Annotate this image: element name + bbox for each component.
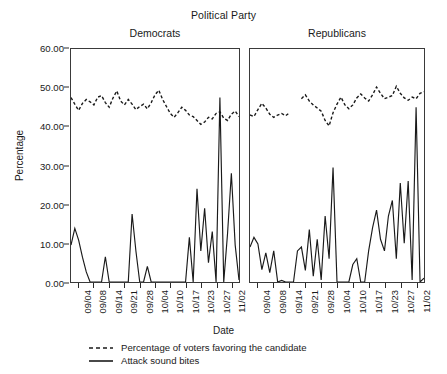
x-tick-mark bbox=[78, 283, 79, 288]
x-tick-label: 10/17 bbox=[373, 290, 384, 313]
x-tick-mark bbox=[305, 283, 306, 288]
x-tick-mark bbox=[401, 283, 402, 288]
legend-label-voters: Percentage of voters favoring the candid… bbox=[121, 342, 307, 353]
x-tick-mark bbox=[109, 283, 110, 288]
x-tick-mark bbox=[186, 283, 187, 288]
y-axis-ticks: 0.0010.0020.0030.0040.0050.0060.00 bbox=[16, 0, 64, 374]
y-tick-mark bbox=[64, 165, 69, 166]
x-tick-mark bbox=[273, 283, 274, 288]
x-tick-label: 10/23 bbox=[205, 290, 216, 313]
x-tick-label: 11/02 bbox=[236, 290, 247, 313]
x-tick-label: 09/14 bbox=[113, 290, 124, 313]
x-tick-label: 09/21 bbox=[128, 290, 139, 313]
x-tick-label: 10/10 bbox=[357, 290, 368, 313]
x-tick-label: 09/28 bbox=[144, 290, 155, 313]
legend-item-attack: Attack sound bites bbox=[88, 354, 307, 367]
y-tick-label: 40.00 bbox=[18, 121, 64, 132]
y-tick-label: 20.00 bbox=[18, 199, 64, 210]
panel-republicans bbox=[249, 48, 425, 283]
x-tick-label: 10/17 bbox=[190, 290, 201, 313]
x-tick-mark bbox=[201, 283, 202, 288]
x-tick-label: 09/04 bbox=[82, 290, 93, 313]
y-tick-mark bbox=[64, 126, 69, 127]
x-tick-mark bbox=[170, 283, 171, 288]
x-tick-label: 10/04 bbox=[159, 290, 170, 313]
chart-title: Political Party bbox=[0, 9, 447, 21]
x-tick-label: 10/27 bbox=[221, 290, 232, 313]
y-tick-label: 60.00 bbox=[18, 43, 64, 54]
x-tick-mark bbox=[417, 283, 418, 288]
x-tick-label: 11/02 bbox=[421, 290, 432, 313]
y-tick-label: 10.00 bbox=[18, 238, 64, 249]
x-tick-label: 09/08 bbox=[277, 290, 288, 313]
x-tick-mark bbox=[93, 283, 94, 288]
x-tick-mark bbox=[321, 283, 322, 288]
x-tick-label: 09/28 bbox=[325, 290, 336, 313]
y-tick-label: 0.00 bbox=[18, 278, 64, 289]
panel-title-republicans: Republicans bbox=[249, 27, 425, 39]
x-tick-mark bbox=[217, 283, 218, 288]
chart-legend: Percentage of voters favoring the candid… bbox=[88, 341, 307, 367]
x-tick-label: 10/04 bbox=[341, 290, 352, 313]
panel-title-democrats: Democrats bbox=[70, 27, 240, 39]
y-tick-mark bbox=[64, 243, 69, 244]
x-tick-label: 10/10 bbox=[174, 290, 185, 313]
solid-line-icon bbox=[88, 356, 114, 366]
y-tick-mark bbox=[64, 283, 69, 284]
x-tick-mark bbox=[289, 283, 290, 288]
x-axis-label: Date bbox=[0, 325, 447, 336]
y-tick-mark bbox=[64, 48, 69, 49]
series-line-voters bbox=[250, 86, 424, 126]
x-tick-label: 09/14 bbox=[293, 290, 304, 313]
x-tick-label: 09/04 bbox=[261, 290, 272, 313]
y-tick-label: 30.00 bbox=[18, 160, 64, 171]
x-tick-mark bbox=[257, 283, 258, 288]
legend-label-attack: Attack sound bites bbox=[121, 355, 199, 366]
x-tick-mark bbox=[353, 283, 354, 288]
x-tick-label: 09/08 bbox=[97, 290, 108, 313]
x-tick-label: 10/23 bbox=[389, 290, 400, 313]
chart-figure: Political Party Democrats Republicans Pe… bbox=[0, 0, 447, 374]
x-tick-mark bbox=[124, 283, 125, 288]
series-line-attack bbox=[250, 107, 424, 282]
x-tick-mark bbox=[140, 283, 141, 288]
x-tick-mark bbox=[337, 283, 338, 288]
panel-democrats bbox=[70, 48, 240, 283]
y-tick-label: 50.00 bbox=[18, 82, 64, 93]
series-line-attack bbox=[71, 98, 239, 282]
legend-item-voters: Percentage of voters favoring the candid… bbox=[88, 341, 307, 354]
dashed-line-icon bbox=[88, 343, 114, 353]
x-tick-label: 10/27 bbox=[405, 290, 416, 313]
y-tick-mark bbox=[64, 87, 69, 88]
x-tick-label: 09/21 bbox=[309, 290, 320, 313]
x-tick-mark bbox=[369, 283, 370, 288]
x-tick-mark bbox=[232, 283, 233, 288]
x-tick-mark bbox=[385, 283, 386, 288]
series-line-voters bbox=[71, 90, 239, 124]
y-tick-mark bbox=[64, 204, 69, 205]
x-tick-mark bbox=[155, 283, 156, 288]
